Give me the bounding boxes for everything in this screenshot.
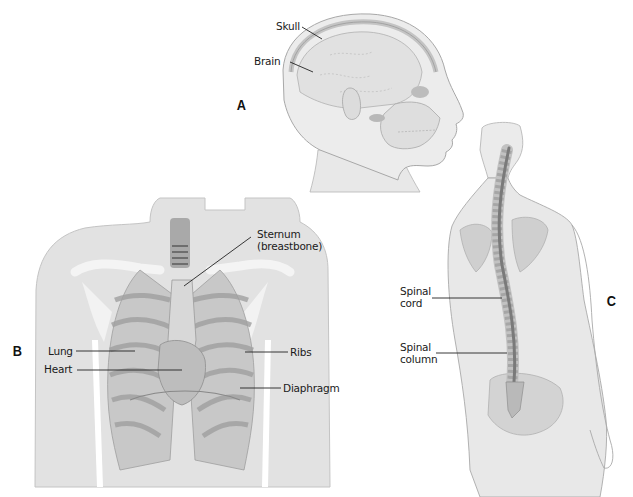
- label-spinal-column-line2: column: [400, 353, 437, 365]
- label-heart: Heart: [44, 363, 72, 375]
- label-sternum: Sternum (breastbone): [257, 228, 322, 252]
- label-spinal-cord-line2: cord: [400, 297, 431, 309]
- figure-letter-c: C: [607, 292, 616, 309]
- anatomy-figure: A B C Skull Brain Sternum (breastbone) L…: [0, 0, 633, 497]
- figure-letter-a: A: [237, 96, 246, 113]
- label-diaphragm: Diaphragm: [283, 382, 340, 394]
- label-spinal-cord: Spinal cord: [400, 285, 431, 309]
- label-spinal-column: Spinal column: [400, 341, 437, 365]
- label-sternum-line2: (breastbone): [257, 240, 322, 252]
- label-sternum-line1: Sternum: [257, 228, 322, 240]
- head-illustration: [283, 14, 463, 192]
- back-illustration: [448, 122, 613, 497]
- figure-letter-b: B: [13, 342, 22, 359]
- label-skull: Skull: [276, 20, 300, 32]
- label-brain: Brain: [254, 55, 281, 67]
- label-spinal-cord-line1: Spinal: [400, 285, 431, 297]
- label-spinal-column-line1: Spinal: [400, 341, 437, 353]
- label-lung: Lung: [48, 345, 73, 357]
- label-ribs: Ribs: [290, 346, 312, 358]
